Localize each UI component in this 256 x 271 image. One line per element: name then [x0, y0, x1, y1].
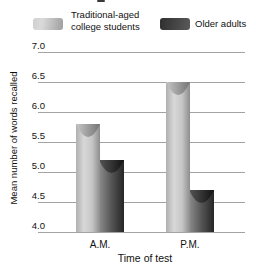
x-axis-title: Time of test: [85, 252, 205, 264]
chart-figure: Traditional-aged college students Older …: [0, 0, 256, 271]
y-tick-label-5.5: 5.5: [32, 130, 45, 141]
y-tick-label-4.5: 4.5: [32, 190, 45, 201]
x-tick-label-am: A.M.: [90, 239, 111, 250]
y-tick-label-5.0: 5.0: [32, 160, 45, 171]
bar-pm-college-students: [166, 82, 190, 232]
x-tick-label-pm: P.M.: [180, 239, 199, 250]
chart-svg: A.M.P.M.7.06.56.05.55.04.54.0: [0, 0, 256, 271]
y-tick-label-6.5: 6.5: [32, 70, 45, 81]
y-tick-label-4.0: 4.0: [32, 220, 45, 231]
bar-am-college-students: [76, 124, 100, 232]
y-tick-label-6.0: 6.0: [32, 100, 45, 111]
y-tick-label-7.0: 7.0: [32, 40, 45, 51]
